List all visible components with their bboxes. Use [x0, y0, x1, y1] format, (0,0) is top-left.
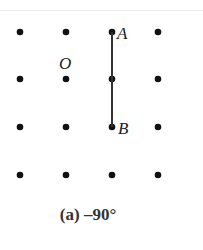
grid-dot	[109, 172, 116, 179]
grid-dots	[17, 29, 162, 179]
grid-dot	[155, 124, 162, 131]
grid-dot	[63, 124, 70, 131]
grid-dot	[17, 76, 24, 83]
grid-dot	[17, 29, 24, 36]
figure-caption: (a) –90°	[0, 205, 176, 225]
label-a: A	[116, 24, 128, 43]
grid-dot	[155, 76, 162, 83]
grid-dot	[17, 124, 24, 131]
grid-dot	[63, 76, 70, 83]
label-o: O	[59, 54, 71, 73]
label-b: B	[118, 119, 129, 138]
grid-dot	[63, 172, 70, 179]
grid-dot	[63, 29, 70, 36]
grid-dot	[155, 172, 162, 179]
grid-dot	[17, 172, 24, 179]
grid-dot	[155, 29, 162, 36]
